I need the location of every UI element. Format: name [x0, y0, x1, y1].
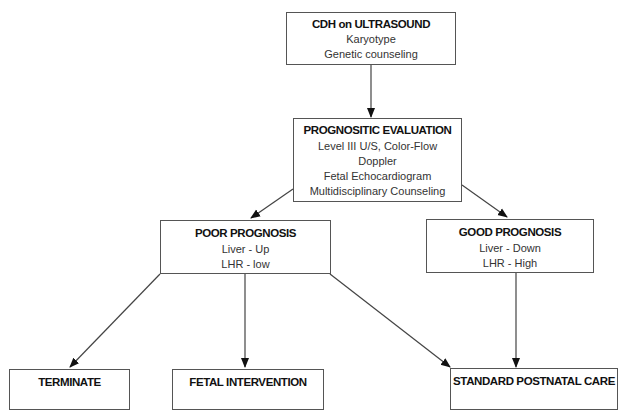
node-line: Genetic counseling — [287, 47, 455, 62]
node-line: Multidisciplinary Counseling — [294, 184, 461, 199]
node-line: LHR - High — [427, 256, 593, 271]
node-title: POOR PROGNOSIS — [161, 227, 330, 239]
node-prognostic-evaluation: PROGNOSITIC EVALUATION Level III U/S, Co… — [293, 118, 462, 202]
node-line: Doppler — [294, 154, 461, 169]
node-line: LHR - low — [161, 257, 330, 272]
node-fetal-intervention: FETAL INTERVENTION — [172, 369, 324, 410]
node-title: PROGNOSITIC EVALUATION — [294, 124, 461, 136]
node-title: CDH on ULTRASOUND — [287, 18, 455, 30]
node-line: Fetal Echocardiogram — [294, 169, 461, 184]
node-title: FETAL INTERVENTION — [173, 376, 323, 388]
node-cdh-on-ultrasound: CDH on ULTRASOUND Karyotype Genetic coun… — [286, 12, 456, 65]
node-line: Liver - Up — [161, 242, 330, 257]
node-title: TERMINATE — [10, 376, 129, 388]
node-poor-prognosis: POOR PROGNOSIS Liver - Up LHR - low — [160, 220, 331, 274]
arrow-evaluation-to-poor — [251, 189, 293, 218]
node-standard-postnatal-care: STANDARD POSTNATAL CARE — [450, 368, 618, 410]
node-line: Level III U/S, Color-Flow — [294, 139, 461, 154]
node-title: GOOD PROGNOSIS — [427, 226, 593, 238]
node-line: Karyotype — [287, 32, 455, 47]
node-title: STANDARD POSTNATAL CARE — [451, 375, 617, 387]
arrow-poor-to-terminate — [70, 274, 160, 367]
node-line: Liver - Down — [427, 241, 593, 256]
arrow-evaluation-to-good — [462, 185, 507, 217]
node-good-prognosis: GOOD PROGNOSIS Liver - Down LHR - High — [426, 219, 594, 273]
arrow-poor-to-postnatal — [330, 274, 450, 367]
node-terminate: TERMINATE — [9, 369, 130, 410]
